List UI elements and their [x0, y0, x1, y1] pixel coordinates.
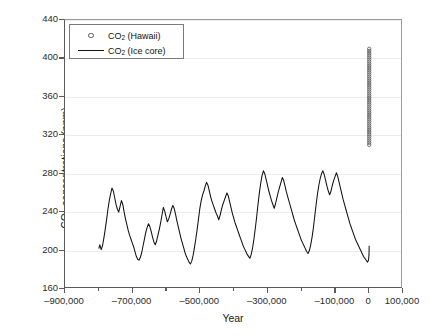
y-tick-label: 200: [20, 244, 58, 255]
y-tick-label: 360: [20, 90, 58, 101]
x-tick-mark: [132, 288, 133, 293]
legend-label-icecore: CO2 (Ice core): [108, 46, 166, 56]
x-tick-mark: [368, 288, 369, 293]
y-tick-label: 400: [20, 51, 58, 62]
co2-concentration-chart: CO2 concentrations (ppm) 160200240280320…: [0, 0, 436, 336]
legend-item-hawaii: CO2 (Hawaii): [74, 28, 179, 43]
x-tick-label: 0: [366, 295, 371, 306]
x-axis-title: Year: [64, 312, 402, 324]
x-tick-label: –100,000: [315, 295, 355, 306]
x-tick-mark-minor: [165, 288, 166, 291]
legend-label-hawaii: CO2 (Hawaii): [108, 31, 161, 41]
x-tick-mark-minor: [301, 288, 302, 291]
x-tick-mark: [402, 288, 403, 293]
y-tick-label: 320: [20, 128, 58, 139]
x-tick-mark: [199, 288, 200, 293]
x-tick-mark: [334, 288, 335, 293]
y-tick-label: 280: [20, 167, 58, 178]
x-tick-label: –500,000: [179, 295, 219, 306]
y-tick-label: 160: [20, 282, 58, 293]
x-tick-label: –900,000: [44, 295, 84, 306]
legend-item-icecore: CO2 (Ice core): [74, 43, 179, 58]
y-tick-label: 440: [20, 13, 58, 24]
hawaii-scatter-points: [368, 47, 371, 146]
legend-line-icon: [74, 50, 108, 52]
legend-marker-circle-icon: [74, 33, 108, 39]
x-tick-mark: [64, 288, 65, 293]
x-tick-label: –700,000: [112, 295, 152, 306]
x-tick-mark-minor: [233, 288, 234, 291]
hawaii-data-point: [368, 47, 371, 50]
x-tick-mark-minor: [98, 288, 99, 291]
legend: CO2 (Hawaii) CO2 (Ice core): [69, 24, 184, 59]
x-tick-label: 100,000: [385, 295, 419, 306]
x-tick-label: –300,000: [247, 295, 287, 306]
x-tick-mark: [267, 288, 268, 293]
y-tick-label: 240: [20, 205, 58, 216]
data-series-layer: [65, 20, 403, 289]
plot-area: CO2 (Hawaii) CO2 (Ice core): [64, 19, 402, 288]
ice-core-line: [99, 171, 369, 264]
